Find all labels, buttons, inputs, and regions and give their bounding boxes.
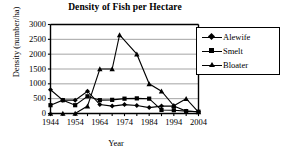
legend-label-bloater: Bloater	[223, 60, 248, 70]
data-point-alewife	[122, 102, 127, 107]
data-point-smelt	[184, 109, 188, 113]
data-point-bloater	[117, 32, 122, 37]
data-point-smelt	[135, 96, 139, 100]
data-point-smelt	[159, 108, 163, 112]
data-point-smelt	[73, 103, 77, 107]
data-point-bloater	[159, 89, 164, 94]
legend-marker-triangle-icon	[201, 59, 223, 71]
data-point-smelt	[147, 97, 151, 101]
data-point-alewife	[110, 104, 115, 109]
legend-item-bloater[interactable]: Bloater	[197, 58, 279, 72]
data-point-smelt	[85, 94, 89, 98]
series-line-bloater	[51, 35, 199, 114]
data-point-smelt	[98, 98, 102, 102]
legend-marker-diamond-icon	[201, 31, 223, 43]
data-point-smelt	[172, 108, 176, 112]
data-point-smelt	[110, 98, 114, 102]
data-point-alewife	[147, 105, 152, 110]
legend-item-alewife[interactable]: Alewife	[197, 30, 279, 44]
legend-label-alewife: Alewife	[223, 32, 250, 42]
legend-marker-square-icon	[201, 45, 223, 57]
plot-area	[0, 0, 284, 157]
data-point-smelt	[61, 98, 65, 102]
legend-item-smelt[interactable]: Smelt	[197, 44, 279, 58]
data-point-bloater	[85, 103, 90, 108]
legend-label-smelt: Smelt	[223, 46, 243, 56]
data-point-smelt	[122, 97, 126, 101]
data-point-alewife	[134, 103, 139, 108]
chart-legend: Alewife Smelt Bloater	[196, 27, 280, 75]
data-point-smelt	[48, 103, 52, 107]
chart-container: Density of Fish per Hectare Density (num…	[0, 0, 284, 157]
